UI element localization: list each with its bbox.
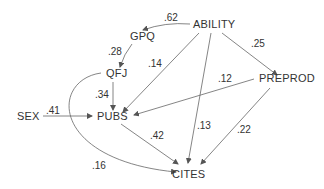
edge-ability-pubs xyxy=(123,33,199,112)
edge-qfj-cites xyxy=(69,73,176,172)
coef-pubs-cites: .42 xyxy=(150,130,164,141)
coef-qfj-pubs: .34 xyxy=(95,89,109,100)
edge-ability-preprod xyxy=(222,33,277,75)
node-qfj: QFJ xyxy=(106,67,127,79)
coef-ability-preprod: .25 xyxy=(251,38,265,49)
node-preprod: PREPROD xyxy=(259,72,315,84)
node-sex: SEX xyxy=(17,110,40,122)
coef-preprod-cites: .22 xyxy=(237,124,251,135)
node-gpq: GPQ xyxy=(130,30,155,42)
edge-preprod-pubs xyxy=(134,79,254,115)
node-pubs: PUBS xyxy=(97,110,128,122)
coef-qfj-cites: .16 xyxy=(92,160,106,171)
node-ability: ABILITY xyxy=(193,18,235,30)
coef-gpq-qfj: .28 xyxy=(108,46,122,57)
coef-ability-cites: .13 xyxy=(197,120,211,131)
node-cites: CITES xyxy=(172,168,205,180)
path-diagram-edges xyxy=(0,0,324,189)
coef-ability-pubs: .14 xyxy=(148,58,162,69)
edge-preprod-cites xyxy=(201,88,270,164)
coef-sex-pubs: .41 xyxy=(46,105,60,116)
coef-preprod-pubs: .12 xyxy=(218,73,232,84)
coef-ability-gpq: .62 xyxy=(164,12,178,23)
